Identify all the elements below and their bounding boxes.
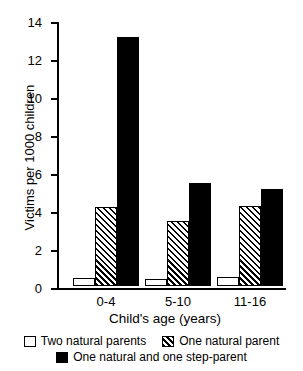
y-axis-tick-label: 6: [35, 167, 42, 182]
chart-legend: Two natural parentsOne natural parent On…: [0, 334, 303, 366]
y-axis-tick-label: 0: [35, 281, 42, 296]
bar: [239, 206, 261, 286]
legend-item: Two natural parents: [24, 334, 146, 348]
bar: [117, 37, 139, 286]
bar-chart-figure: Victims per 1000 children 02468101214 0-…: [0, 0, 303, 371]
bar-group: [217, 20, 283, 286]
legend-row-secondary: One natural and one step-parent: [0, 350, 303, 364]
x-axis-tick-label: 5-10: [145, 294, 211, 309]
y-axis-tick-label: 12: [28, 53, 42, 68]
bar: [145, 279, 167, 286]
y-axis-tick-label: 4: [35, 205, 42, 220]
y-axis-line: [57, 22, 59, 289]
bar-group: [145, 20, 211, 286]
y-axis-tick-label: 8: [35, 129, 42, 144]
y-axis-tick-label: 10: [28, 91, 42, 106]
legend-item: One natural parent: [162, 334, 279, 348]
plot-area: 02468101214 0-45-1011-16: [57, 22, 286, 288]
y-axis-label: Victims per 1000 children: [22, 43, 37, 273]
legend-swatch-hatch: [162, 336, 174, 347]
bar: [261, 189, 283, 286]
legend-item: One natural and one step-parent: [56, 350, 246, 364]
y-axis-tick: 14: [51, 22, 57, 24]
y-axis-tick: 12: [51, 60, 57, 62]
y-axis-tick-label: 2: [35, 243, 42, 258]
y-axis-tick: 6: [51, 174, 57, 176]
x-axis-label: Child's age (years): [40, 311, 290, 326]
y-axis-tick: 4: [51, 212, 57, 214]
bar: [73, 278, 95, 286]
y-axis-tick: 2: [51, 250, 57, 252]
legend-label: Two natural parents: [41, 334, 146, 348]
legend-row-primary: Two natural parentsOne natural parent: [0, 334, 303, 348]
bar: [167, 221, 189, 286]
legend-swatch-black: [56, 352, 68, 363]
y-axis-tick: 0: [51, 288, 57, 290]
x-axis-tick-label: 11-16: [217, 294, 283, 309]
bar: [217, 277, 239, 287]
legend-label: One natural parent: [179, 334, 279, 348]
bar: [95, 207, 117, 286]
y-axis-tick-label: 14: [28, 15, 42, 30]
legend-label: One natural and one step-parent: [73, 350, 246, 364]
y-axis-tick: 8: [51, 136, 57, 138]
bar: [189, 183, 211, 286]
y-axis-tick: 10: [51, 98, 57, 100]
bar-group: [73, 20, 139, 286]
x-axis-line: [57, 288, 286, 290]
x-axis-tick-label: 0-4: [73, 294, 139, 309]
legend-swatch-white: [24, 336, 36, 347]
